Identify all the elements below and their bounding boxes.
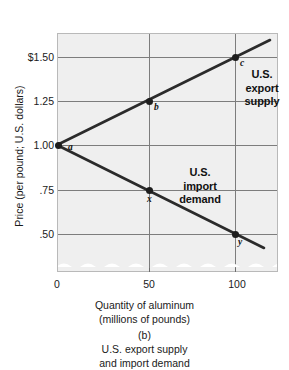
point-c-dot [232, 54, 239, 61]
point-a-label: a [68, 142, 73, 152]
y-tick-150: $1.50 [28, 51, 54, 63]
y-tick-100: 1.00 [34, 139, 54, 151]
point-b-label: b [154, 102, 159, 112]
y-axis-title: Price (per pound; U.S. dollars) [13, 81, 25, 231]
y-tick-125: 1.25 [34, 95, 54, 107]
x-tickmark-100 [235, 268, 236, 272]
import-demand-line1: U.S. [168, 166, 232, 180]
export-supply-line1: U.S. [238, 68, 286, 82]
export-supply-line2: export [238, 82, 286, 96]
point-y-label: y [238, 237, 242, 247]
point-x-label: x [147, 194, 152, 204]
import-demand-annotation: U.S. import demand [168, 166, 232, 207]
export-supply-line3: supply [238, 95, 286, 109]
x-tick-0: 0 [47, 278, 67, 290]
y-tick-050: .50 [39, 228, 54, 240]
caption-line2: and import demand [0, 356, 289, 370]
panel-id: (b) [0, 328, 289, 342]
point-x-dot [146, 187, 153, 194]
x-tickmark-50 [149, 268, 150, 272]
caption-line1: U.S. export supply [0, 342, 289, 356]
y-axis-title-wrap: Price (per pound; U.S. dollars) [6, 0, 20, 300]
x-tick-100: 100 [225, 278, 249, 290]
point-c-label: c [240, 58, 244, 68]
vline-q50 [149, 34, 150, 272]
import-demand-line2: import [168, 180, 232, 194]
axis-break-wave [58, 258, 277, 267]
x-axis-title-line2: (millions of pounds) [0, 312, 289, 326]
import-demand-line3: demand [168, 193, 232, 207]
point-b-dot [146, 98, 153, 105]
point-a-dot [55, 142, 62, 149]
gridline-050 [58, 234, 277, 235]
export-supply-annotation: U.S. export supply [238, 68, 286, 109]
x-axis-title-line1: Quantity of aluminum [0, 298, 289, 312]
x-tick-50: 50 [139, 278, 159, 290]
y-tick-075: .75 [39, 184, 54, 196]
gridline-100 [58, 145, 277, 146]
